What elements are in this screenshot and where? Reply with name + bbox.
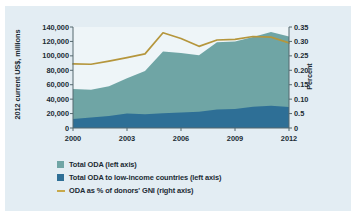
y-tick-label-left: 100,000 (31, 51, 69, 60)
figure-panel: 2012 current US$, millions Percent 020,0… (5, 6, 351, 211)
x-tick-label: 2003 (112, 134, 142, 143)
legend-square-swatch-icon (57, 174, 64, 181)
y-tick-label-left: 0 (31, 124, 69, 133)
y-tick-label-right: 0.30 (294, 37, 320, 46)
y-tick-label-left: 60,000 (31, 80, 69, 89)
legend-item-label: Total ODA to low-income countries (left … (69, 173, 221, 182)
y-tick-label-right: 0.35 (294, 23, 320, 32)
legend-square-swatch-icon (57, 161, 64, 168)
x-tick-label: 2009 (220, 134, 250, 143)
y-tick-label-right: 0.15 (294, 80, 320, 89)
x-tick-label: 2006 (166, 134, 196, 143)
y-tick-label-right: 0.25 (294, 51, 320, 60)
x-tick-label: 2000 (58, 134, 88, 143)
y-tick-label-left: 140,000 (31, 23, 69, 32)
chart-plot-area: 2012 current US$, millions Percent 020,0… (5, 6, 351, 211)
y-tick-label-right: 0.20 (294, 66, 320, 75)
y-tick-label-right: 0 (294, 124, 320, 133)
y-tick-label-left: 40,000 (31, 95, 69, 104)
y-tick-label-right: 0.5 (294, 109, 320, 118)
legend-item[interactable]: Total ODA to low-income countries (left … (57, 171, 337, 184)
legend-item-label: ODA as % of donors' GNI (right axis) (69, 186, 193, 195)
legend-item[interactable]: ODA as % of donors' GNI (right axis) (57, 184, 337, 197)
y-tick-label-left: 120,000 (31, 37, 69, 46)
y-tick-label-left: 80,000 (31, 66, 69, 75)
legend-item-label: Total ODA (left axis) (69, 160, 137, 169)
legend-item[interactable]: Total ODA (left axis) (57, 158, 337, 171)
x-tick-label: 2012 (274, 134, 304, 143)
y-tick-label-left: 20,000 (31, 109, 69, 118)
y-tick-label-right: 0.10 (294, 95, 320, 104)
chart-legend: Total ODA (left axis)Total ODA to low-in… (57, 158, 337, 197)
legend-line-swatch-icon (57, 190, 65, 192)
